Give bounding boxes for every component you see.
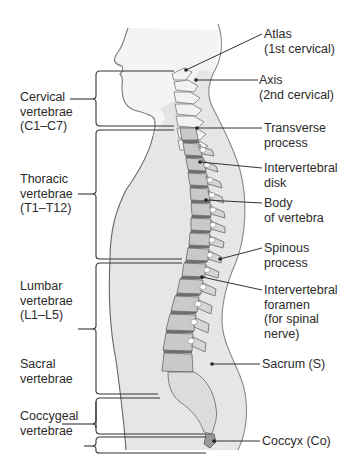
label-line: (2nd cervical) [259,88,334,103]
label-line: disk [264,176,338,191]
label-line: nerve) [264,327,338,342]
label-line: process [264,136,326,151]
label-line: Lumbar [20,279,73,294]
label-line: Axis [259,73,334,88]
label-line: vertebrae [20,294,73,309]
label-line: (T1–T12) [20,201,73,216]
label-line: Spinous [264,241,309,256]
label-intervertebral-disk: Intervertebral disk [264,161,338,190]
label-line: of vertebra [264,211,324,226]
label-line: (1st cervical) [264,42,335,57]
spine-diagram: Cervical vertebrae (C1–C7) Thoracic vert… [0,0,352,456]
label-thoracic-vertebrae: Thoracic vertebrae (T1–T12) [20,172,73,216]
label-line: (L1–L5) [20,308,73,323]
label-sacral-vertebrae: Sacral vertebrae [20,357,73,386]
label-line: (C1–C7) [20,119,73,134]
label-line: Transverse [264,121,326,136]
label-transverse-process: Transverse process [264,121,326,150]
label-line: vertebrae [20,187,73,202]
label-line: foramen [264,298,338,313]
label-line: Sacrum (S) [262,357,325,372]
label-line: vertebrae [20,372,73,387]
label-line: Coccyx (Co) [262,434,331,449]
label-line: Body [264,196,324,211]
label-line: Cervical [20,90,73,105]
label-atlas: Atlas (1st cervical) [264,27,335,56]
label-line: (for spinal [264,312,338,327]
label-line: Intervertebral [264,161,338,176]
label-lumbar-vertebrae: Lumbar vertebrae (L1–L5) [20,279,73,323]
label-line: Atlas [264,27,335,42]
label-intervertebral-foramen: Intervertebral foramen (for spinal nerve… [264,283,338,341]
label-axis: Axis (2nd cervical) [259,73,334,102]
label-line: vertebrae [20,105,73,120]
label-coccyx: Coccyx (Co) [262,434,331,449]
label-sacrum: Sacrum (S) [262,357,325,372]
label-spinous-process: Spinous process [264,241,309,270]
spine-illustration [0,0,352,456]
label-coccygeal-vertebrae: Coccygeal vertebrae [20,409,78,438]
label-line: Intervertebral [264,283,338,298]
label-line: Thoracic [20,172,73,187]
label-line: vertebrae [20,424,78,439]
label-cervical-vertebrae: Cervical vertebrae (C1–C7) [20,90,73,134]
label-line: Coccygeal [20,409,78,424]
label-body-of-vertebra: Body of vertebra [264,196,324,225]
label-line: Sacral [20,357,73,372]
label-line: process [264,256,309,271]
